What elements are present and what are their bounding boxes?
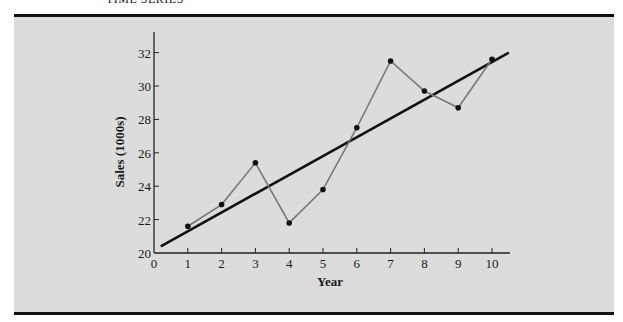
data-point	[286, 220, 292, 226]
x-tick-label: 6	[354, 256, 361, 271]
data-point	[253, 160, 259, 166]
x-tick-label: 10	[486, 256, 499, 271]
x-tick-label: 2	[218, 256, 225, 271]
time-series-chart: 20222426283032012345678910YearSales (100…	[0, 0, 623, 322]
x-tick-label: 7	[387, 256, 394, 271]
data-point	[354, 125, 360, 131]
y-axis-title: Sales (1000s)	[112, 116, 127, 187]
x-tick-label: 3	[252, 256, 259, 271]
x-tick-label: 0	[151, 256, 158, 271]
data-point	[320, 187, 326, 193]
data-point	[489, 56, 495, 62]
x-tick-label: 9	[455, 256, 462, 271]
y-tick-label: 32	[138, 46, 151, 61]
data-point	[455, 105, 461, 111]
data-point	[388, 58, 394, 64]
y-tick-label: 22	[138, 213, 151, 228]
x-axis-title: Year	[317, 274, 343, 289]
x-tick-label: 8	[421, 256, 428, 271]
data-point	[219, 202, 225, 208]
y-tick-label: 24	[138, 179, 152, 194]
data-point	[422, 88, 428, 94]
x-tick-label: 5	[320, 256, 327, 271]
y-tick-label: 28	[138, 112, 151, 127]
sales-line	[188, 59, 492, 226]
x-tick-label: 1	[185, 256, 192, 271]
data-point	[185, 223, 191, 229]
x-tick-label: 4	[286, 256, 293, 271]
y-tick-label: 30	[138, 79, 151, 94]
y-tick-label: 26	[138, 146, 152, 161]
trend-line	[161, 53, 509, 247]
y-tick-label: 20	[138, 246, 151, 261]
